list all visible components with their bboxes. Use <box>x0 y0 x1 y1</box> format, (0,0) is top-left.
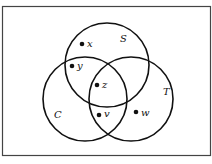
point-label: w <box>141 107 150 118</box>
point-dot <box>80 42 85 47</box>
set-label-s: S <box>120 33 127 44</box>
point-label: y <box>76 60 83 71</box>
point-label: z <box>101 79 108 90</box>
point-label: v <box>104 108 110 119</box>
point-dot <box>95 83 100 88</box>
venn-diagram: S C T x y z v w <box>0 0 212 164</box>
point-dot <box>134 110 139 115</box>
point-y: y <box>70 60 83 71</box>
point-x: x <box>80 38 93 49</box>
circle-c <box>43 57 127 141</box>
point-v: v <box>97 108 110 119</box>
set-label-c: C <box>54 109 62 120</box>
point-z: z <box>95 79 108 90</box>
point-dot <box>97 113 102 118</box>
set-label-t: T <box>163 86 171 97</box>
point-w: w <box>134 107 150 118</box>
point-dot <box>70 64 75 69</box>
point-label: x <box>87 38 93 49</box>
